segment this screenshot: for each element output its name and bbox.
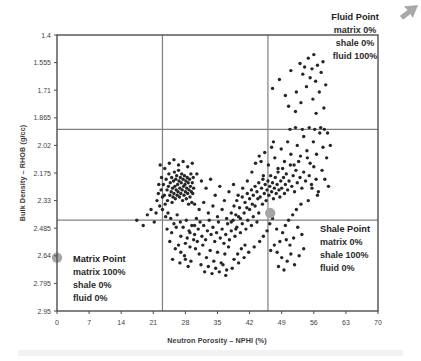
data-point <box>255 220 258 223</box>
data-point <box>288 128 291 131</box>
data-point <box>312 140 315 143</box>
data-point <box>174 247 177 250</box>
data-point <box>172 222 175 225</box>
fluid-point-line-1: matrix 0% <box>334 25 377 35</box>
data-point <box>272 197 275 200</box>
data-point <box>278 240 281 243</box>
data-point <box>181 199 184 202</box>
data-point <box>170 176 173 179</box>
data-point <box>158 163 161 166</box>
data-point <box>193 224 196 227</box>
data-point <box>186 192 189 195</box>
data-point <box>275 227 278 230</box>
data-point <box>233 235 236 238</box>
shale-point-line-1: matrix 0% <box>320 237 363 247</box>
data-point <box>303 65 306 68</box>
data-point <box>168 194 171 197</box>
data-point <box>188 231 191 234</box>
data-point <box>166 211 169 214</box>
data-point <box>301 128 304 131</box>
data-point <box>298 176 301 179</box>
data-point <box>289 153 292 156</box>
data-point <box>227 190 230 193</box>
data-point <box>169 217 172 220</box>
data-point <box>320 169 323 172</box>
data-point <box>247 251 250 254</box>
data-point <box>174 178 177 181</box>
data-point <box>173 170 176 173</box>
x-tick-label-10: 70 <box>374 319 382 326</box>
x-tick-label-6: 42 <box>246 319 254 326</box>
data-point <box>276 167 279 170</box>
data-point <box>299 101 302 104</box>
data-point <box>238 206 241 209</box>
data-point <box>183 254 186 257</box>
data-point <box>302 247 305 250</box>
data-point <box>257 211 260 214</box>
data-point <box>260 186 263 189</box>
data-point <box>283 192 286 195</box>
data-point <box>225 268 228 271</box>
data-point <box>177 163 180 166</box>
data-point <box>228 238 231 241</box>
data-point <box>208 249 211 252</box>
data-point <box>170 231 173 234</box>
data-point <box>263 151 266 154</box>
data-point <box>312 53 315 56</box>
x-tick-label-4: 28 <box>182 319 190 326</box>
data-point <box>230 267 233 270</box>
data-point <box>214 194 217 197</box>
x-tick-label-2: 14 <box>117 319 125 326</box>
data-point <box>287 218 290 221</box>
x-tick-label-1: 7 <box>87 319 91 326</box>
data-point <box>180 188 183 191</box>
data-point <box>326 131 329 134</box>
data-point <box>157 183 160 186</box>
y-tick-label-4: 2.02 <box>37 142 51 149</box>
data-point <box>286 140 289 143</box>
y-tick-label-2: 1.71 <box>37 87 51 94</box>
data-point <box>306 156 309 159</box>
data-point <box>168 240 171 243</box>
data-point <box>230 220 233 223</box>
matrix-point-line-3: fluid 0% <box>73 293 108 303</box>
data-point <box>202 201 205 204</box>
y-tick-label-8: 2.64 <box>37 252 51 259</box>
data-point <box>255 190 258 193</box>
data-point <box>268 222 271 225</box>
data-point <box>232 183 235 186</box>
y-tick-label-5: 2.175 <box>33 170 51 177</box>
data-point <box>211 204 214 207</box>
data-point <box>285 172 288 175</box>
y-tick-label-7: 2.485 <box>33 225 51 232</box>
data-point <box>318 131 321 134</box>
data-point <box>162 183 165 186</box>
data-point <box>223 252 226 255</box>
data-point <box>186 236 189 239</box>
data-point <box>214 267 217 270</box>
data-point <box>146 213 149 216</box>
data-point <box>258 154 261 157</box>
data-point <box>296 226 299 229</box>
data-point <box>170 201 173 204</box>
x-tick-label-3: 21 <box>149 319 157 326</box>
data-point <box>243 201 246 204</box>
data-point <box>305 85 308 88</box>
data-point <box>223 199 226 202</box>
data-point <box>189 259 192 262</box>
data-point <box>246 218 249 221</box>
data-point <box>181 226 184 229</box>
data-point <box>313 128 316 131</box>
data-point <box>254 162 257 165</box>
data-point <box>179 251 182 254</box>
data-point <box>289 252 292 255</box>
data-point <box>312 165 315 168</box>
data-point <box>315 153 318 156</box>
y-tick-label-3: 1.865 <box>33 114 51 121</box>
data-point <box>261 202 264 205</box>
x-axis-ticks: 07142128354249566370 <box>55 311 382 326</box>
data-point <box>305 149 308 152</box>
data-point <box>322 106 325 109</box>
data-point <box>186 265 189 268</box>
data-point <box>250 188 253 191</box>
